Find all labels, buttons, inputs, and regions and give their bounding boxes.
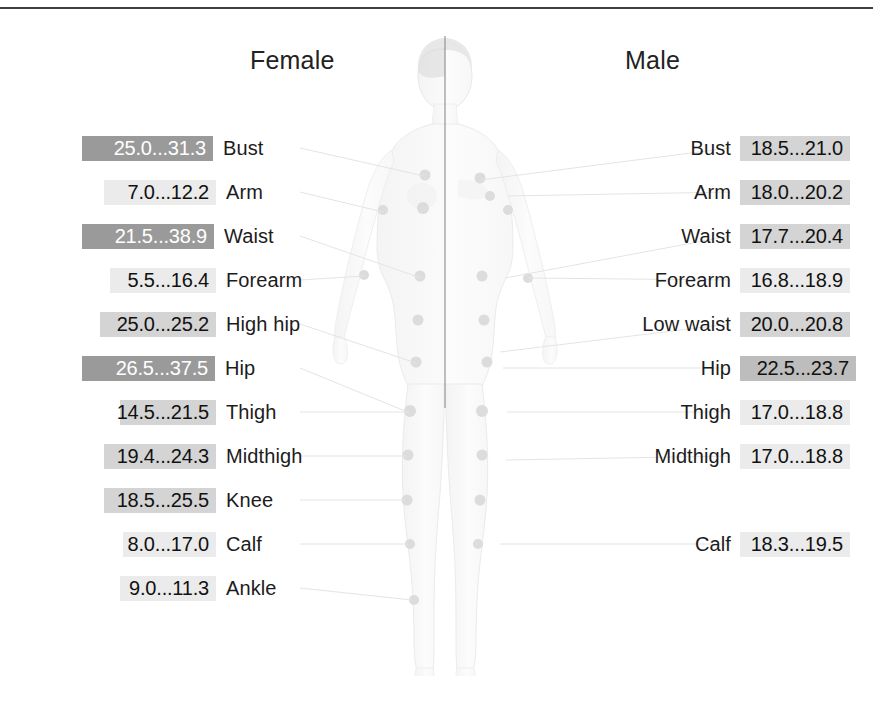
male-column-heading: Male: [625, 46, 680, 75]
measurement-site-label: Low waist: [642, 313, 731, 336]
measurement-value-bar: 17.0...18.8: [740, 400, 850, 425]
measurement-value-bar: 9.0...11.3: [120, 576, 216, 601]
measurement-site-label: Knee: [226, 489, 273, 512]
measurement-row: Midthigh17.0...18.8: [0, 443, 850, 469]
measurement-row: 9.0...11.3Ankle: [120, 575, 277, 601]
measurement-value-bar: 22.5...23.7: [740, 356, 856, 381]
measurement-site-label: Midthigh: [655, 445, 731, 468]
measurement-site-label: Hip: [701, 357, 731, 380]
measurement-value-bar: 18.3...19.5: [740, 532, 850, 557]
measurement-row: Thigh17.0...18.8: [0, 399, 850, 425]
measurement-row: Bust18.5...21.0: [0, 135, 850, 161]
measurement-diagram-page: 25.0...31.3Bust7.0...12.2Arm21.5...38.9W…: [0, 0, 873, 704]
measurement-row: Arm18.0...20.2: [0, 179, 850, 205]
measurement-row: Waist17.7...20.4: [0, 223, 850, 249]
measurement-row: Forearm16.8...18.9: [0, 267, 850, 293]
measurement-site-label: Bust: [691, 137, 731, 160]
measurement-value-bar: 18.5...25.5: [104, 488, 216, 513]
measurement-value-bar: 20.0...20.8: [740, 312, 850, 337]
measurement-row: Hip22.5...23.7: [0, 355, 856, 381]
measurement-row: Calf18.3...19.5: [0, 531, 850, 557]
measurement-value-bar: 17.0...18.8: [740, 444, 850, 469]
female-column-heading: Female: [250, 46, 335, 75]
top-divider-rule: [0, 7, 873, 9]
measurement-row: 18.5...25.5Knee: [104, 487, 273, 513]
measurement-row: Low waist20.0...20.8: [0, 311, 850, 337]
measurement-site-label: Thigh: [680, 401, 731, 424]
measurement-site-label: Arm: [694, 181, 731, 204]
split-body-figure: [330, 28, 560, 676]
measurement-site-label: Waist: [681, 225, 731, 248]
measurement-value-bar: 18.0...20.2: [740, 180, 850, 205]
measurement-site-label: Forearm: [655, 269, 731, 292]
measurement-site-label: Calf: [695, 533, 731, 556]
measurement-site-label: Ankle: [226, 577, 277, 600]
measurement-value-bar: 17.7...20.4: [740, 224, 850, 249]
measurement-value-bar: 16.8...18.9: [740, 268, 850, 293]
measurement-value-bar: 18.5...21.0: [740, 136, 850, 161]
